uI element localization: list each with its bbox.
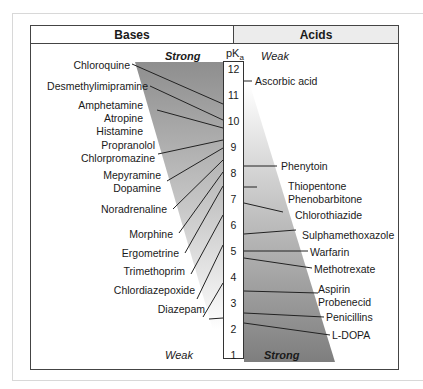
pka-scale-bar xyxy=(223,61,244,359)
base-label: Histamine xyxy=(96,125,143,137)
tick-12: 12 xyxy=(223,64,244,74)
base-label: Noradrenaline xyxy=(101,203,167,215)
acid-label: Methotrexate xyxy=(314,263,375,275)
tick-7: 7 xyxy=(223,194,244,204)
acid-label: Ascorbic acid xyxy=(255,75,317,87)
bases-weak-label: Weak xyxy=(165,349,193,361)
tick-3: 3 xyxy=(223,298,244,308)
tick-1: 1 xyxy=(223,350,244,360)
base-label: Diazepam xyxy=(158,303,205,315)
tick-10: 10 xyxy=(223,116,244,126)
tick-4: 4 xyxy=(223,272,244,282)
base-label: Trimethoprim xyxy=(124,265,185,277)
tick-8: 8 xyxy=(223,168,244,178)
acid-label: Thiopentone xyxy=(288,180,346,192)
base-label: Chlorpromazine xyxy=(81,152,155,164)
base-label: Dopamine xyxy=(113,182,161,194)
base-label: Chlordiazepoxide xyxy=(114,284,195,296)
acid-label: Phenobarbitone xyxy=(288,193,362,205)
base-label: Ergometrine xyxy=(122,247,179,259)
acids-strength-wedge xyxy=(244,85,335,362)
tick-5: 5 xyxy=(223,246,244,256)
base-label: Morphine xyxy=(129,228,173,240)
base-label: Propranolol xyxy=(101,139,155,151)
tick-11: 11 xyxy=(223,90,244,100)
tick-6: 6 xyxy=(223,220,244,230)
base-label: Desmethylimipramine xyxy=(47,80,148,92)
acid-label: Chlorothiazide xyxy=(295,209,362,221)
pka-axis-title: pKa xyxy=(226,47,244,62)
acid-label: Penicillins xyxy=(326,311,373,323)
bases-strong-label: Strong xyxy=(165,50,200,62)
acids-weak-label: Weak xyxy=(261,50,289,62)
base-label: Atropine xyxy=(104,112,143,124)
acid-label: Aspirin xyxy=(318,283,350,295)
acid-label: Probenecid xyxy=(318,296,371,308)
acid-label: L-DOPA xyxy=(332,329,370,341)
tick-2: 2 xyxy=(223,324,244,334)
acids-strong-label: Strong xyxy=(264,349,299,361)
base-label: Amphetamine xyxy=(78,99,143,111)
base-label: Chloroquine xyxy=(73,59,130,71)
acid-label: Phenytoin xyxy=(281,160,328,172)
tick-9: 9 xyxy=(223,142,244,152)
acid-label: Sulphamethoxazole xyxy=(302,229,394,241)
base-label: Mepyramine xyxy=(103,169,161,181)
acid-label: Warfarin xyxy=(310,246,349,258)
